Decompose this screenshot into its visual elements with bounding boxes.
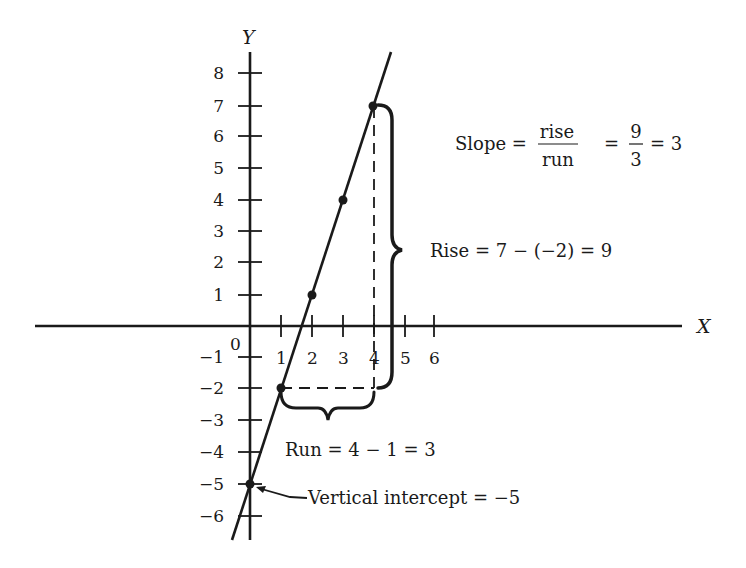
- y-tick-5: 5: [213, 158, 224, 178]
- y-tick-labels: 8 7 6 5 4 3 2 1 −1 −2 −3 −4 −5 −6: [199, 63, 224, 526]
- slope-numerator: rise: [540, 121, 574, 142]
- slope-result: = 3: [650, 133, 682, 154]
- intercept-annotation: Vertical intercept = −5: [307, 487, 520, 508]
- slope-diagram: X Y 1 2 3 4 5 6 0 8 7 6: [0, 0, 746, 568]
- slope-eq1: =: [604, 133, 619, 154]
- y-tick-3: 3: [213, 221, 224, 241]
- y-tick-2: 2: [213, 252, 224, 272]
- run-annotation: Run = 4 − 1 = 3: [285, 439, 436, 460]
- marked-points: [246, 102, 378, 489]
- rise-brace: [378, 105, 402, 388]
- origin-label: 0: [230, 334, 241, 354]
- slope-annotation: Slope = rise run = 9 3 = 3: [455, 121, 682, 170]
- point-2-1: [308, 291, 317, 300]
- point-0-neg5: [246, 480, 255, 489]
- x-axis-label: X: [695, 315, 712, 337]
- y-tick-neg5: −5: [199, 474, 224, 494]
- y-tick-neg2: −2: [199, 378, 224, 398]
- intercept-arrow-line: [258, 488, 307, 498]
- y-axis-label: Y: [242, 26, 257, 48]
- rise-annotation: Rise = 7 − (−2) = 9: [430, 240, 612, 261]
- x-tick-3: 3: [338, 348, 349, 368]
- y-tick-1: 1: [213, 285, 224, 305]
- y-tick-neg1: −1: [199, 347, 224, 367]
- point-4-7: [369, 102, 378, 111]
- slope-prefix: Slope =: [455, 133, 527, 154]
- x-tick-5: 5: [400, 348, 411, 368]
- x-tick-1: 1: [276, 348, 287, 368]
- run-brace: [281, 392, 374, 420]
- x-tick-2: 2: [307, 348, 318, 368]
- y-tick-8: 8: [213, 63, 224, 83]
- intercept-arrow-head: [256, 486, 266, 493]
- y-tick-6: 6: [213, 126, 224, 146]
- slope-frac-den: 3: [630, 149, 641, 170]
- y-tick-7: 7: [213, 96, 224, 116]
- x-tick-6: 6: [429, 348, 440, 368]
- x-tick-labels: 1 2 3 4 5 6: [276, 348, 440, 368]
- slope-denominator: run: [542, 149, 574, 170]
- y-tick-neg3: −3: [199, 410, 224, 430]
- y-tick-4: 4: [213, 190, 224, 210]
- slope-frac-num: 9: [630, 121, 641, 142]
- y-tick-neg4: −4: [199, 442, 224, 462]
- point-3-4: [339, 196, 348, 205]
- y-tick-neg6: −6: [199, 506, 224, 526]
